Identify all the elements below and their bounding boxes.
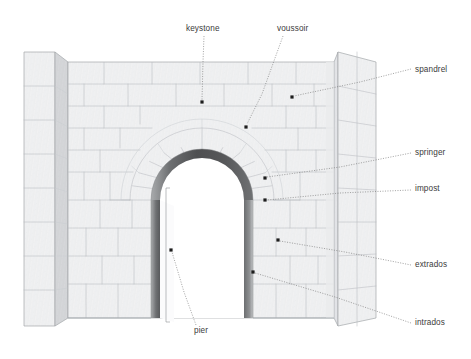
right-jamb-reveal bbox=[244, 200, 253, 318]
wall-right-shadow bbox=[326, 62, 334, 318]
leader-dot-springer bbox=[263, 176, 266, 179]
right-buttress bbox=[334, 52, 376, 326]
label-voussoir: voussoir bbox=[277, 24, 308, 33]
label-keystone: keystone bbox=[186, 24, 220, 33]
right-buttress-return-face bbox=[334, 52, 338, 326]
label-extrados: extrados bbox=[415, 260, 447, 269]
leader-dot-keystone bbox=[200, 100, 203, 103]
leader-dot-pier bbox=[169, 248, 172, 251]
arch-diagram: keystonevoussoirspandrelspringerimpostex… bbox=[0, 0, 471, 359]
left-buttress-front-face bbox=[24, 52, 55, 326]
leader-dot-impost bbox=[263, 198, 266, 201]
label-springer: springer bbox=[415, 148, 446, 157]
passage-pier bbox=[160, 200, 174, 322]
leader-dot-spandrel bbox=[290, 95, 293, 98]
leader-dot-intrados bbox=[251, 270, 254, 273]
label-impost: impost bbox=[415, 184, 440, 193]
left-buttress-side-face bbox=[55, 52, 68, 326]
label-intrados: intrados bbox=[415, 318, 445, 327]
left-jamb-reveal bbox=[151, 200, 160, 318]
label-pier: pier bbox=[194, 326, 208, 335]
label-spandrel: spandrel bbox=[415, 65, 447, 74]
leader-dot-voussoir bbox=[244, 125, 247, 128]
leader-dot-extrados bbox=[276, 238, 279, 241]
left-buttress bbox=[24, 52, 68, 326]
arch-illustration: keystonevoussoirspandrelspringerimpostex… bbox=[0, 0, 471, 359]
